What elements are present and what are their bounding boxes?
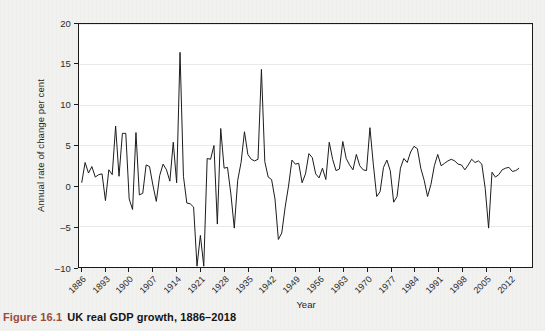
x-axis-tick-mark (462, 268, 463, 272)
x-axis-tick-mark (271, 268, 272, 272)
x-axis-tick-group: 1886189319001907191419211928193519421949… (78, 268, 534, 302)
x-axis-tick-label: 1928 (205, 274, 230, 299)
x-axis-tick-label: 1893 (86, 274, 111, 299)
y-axis-tick-label: –5 (60, 222, 74, 233)
y-axis-tick: 15 (60, 58, 78, 70)
x-axis-tick-label: 1984 (396, 274, 421, 299)
plot-area (78, 23, 533, 268)
x-axis-tick-label: 2005 (468, 274, 493, 299)
x-axis-tick-label: 2012 (491, 274, 516, 299)
x-axis-tick-mark (391, 268, 392, 272)
y-axis-tick-label: 5 (66, 140, 74, 151)
x-axis-tick-label: 1963 (325, 274, 350, 299)
x-axis-tick-mark (367, 268, 368, 272)
x-axis-tick-label: 1921 (182, 274, 207, 299)
figure-caption: Figure 16.1UK real GDP growth, 1886–2018 (3, 310, 543, 324)
y-axis-tick-label: –10 (55, 263, 74, 274)
y-axis-tick: –10 (55, 262, 78, 274)
figure-number: Figure 16.1 (3, 311, 62, 323)
x-axis-tick-label: 1998 (444, 274, 469, 299)
y-axis-tick: –5 (60, 221, 78, 233)
x-axis-tick-mark (105, 268, 106, 272)
figure-title: UK real GDP growth, 1886–2018 (67, 311, 236, 323)
x-axis-tick-label: 1900 (110, 274, 135, 299)
x-axis-tick-label: 1956 (301, 274, 326, 299)
x-axis-tick-label: 1886 (62, 274, 87, 299)
x-axis-tick-mark (510, 268, 511, 272)
x-axis-tick-mark (152, 268, 153, 272)
x-axis-tick-mark (81, 268, 82, 272)
x-axis-tick-mark (128, 268, 129, 272)
x-axis-tick-mark (438, 268, 439, 272)
gdp-growth-line (79, 24, 532, 267)
x-axis-tick-mark (200, 268, 201, 272)
y-axis-tick: 0 (66, 180, 78, 192)
x-axis-tick-mark (343, 268, 344, 272)
x-axis-tick-label: 1942 (253, 274, 278, 299)
y-axis-tick-label: 15 (60, 58, 74, 69)
y-axis-tick-label: 10 (60, 99, 74, 110)
x-axis-tick-label: 1914 (158, 274, 183, 299)
x-axis-tick-mark (486, 268, 487, 272)
x-axis-tick-label: 1970 (348, 274, 373, 299)
x-axis-title: Year (78, 299, 534, 310)
x-axis-tick-mark (319, 268, 320, 272)
figure-container: Annual rate of change per cent 20151050–… (0, 0, 545, 300)
x-axis-tick-mark (295, 268, 296, 272)
x-axis-tick-label: 1907 (134, 274, 159, 299)
x-axis-tick-mark (224, 268, 225, 272)
x-axis-tick-mark (176, 268, 177, 272)
x-axis-tick-mark (414, 268, 415, 272)
x-axis-tick-mark (248, 268, 249, 272)
y-axis-tick-label: 20 (60, 18, 74, 29)
y-axis-tick: 5 (66, 140, 78, 152)
y-axis-tick-group: 20151050–5–10 (0, 23, 78, 268)
x-axis-tick-label: 1949 (277, 274, 302, 299)
x-axis-tick-label: 1935 (229, 274, 254, 299)
y-axis-tick: 20 (60, 17, 78, 29)
y-axis-tick: 10 (60, 99, 78, 111)
y-axis-tick-label: 0 (66, 181, 74, 192)
x-axis-tick-label: 1977 (372, 274, 397, 299)
x-axis-tick-label: 1991 (420, 274, 445, 299)
